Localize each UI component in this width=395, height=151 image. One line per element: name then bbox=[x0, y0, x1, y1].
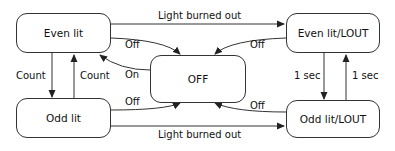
state-even-lit: Even lit bbox=[16, 13, 111, 53]
label-oddlout-to-evenlout: 1 sec bbox=[352, 71, 378, 81]
state-odd-lit-lout: Odd lit/LOUT bbox=[286, 100, 380, 138]
label-oddlout-to-off: Off bbox=[250, 101, 265, 111]
label-odd-to-oddlout: Light burned out bbox=[158, 130, 241, 140]
state-even-lit-label: Even lit bbox=[44, 27, 83, 39]
label-evenlout-to-oddlout: 1 sec bbox=[294, 71, 320, 81]
state-off-label: OFF bbox=[188, 73, 208, 85]
arrow-off-to-even bbox=[100, 55, 150, 70]
state-even-lit-lout: Even lit/LOUT bbox=[286, 13, 380, 53]
label-odd-to-off: Off bbox=[125, 97, 140, 107]
arrow-even-to-off bbox=[111, 38, 180, 54]
label-even-to-odd: Count bbox=[16, 71, 46, 81]
label-evenlout-to-off: Off bbox=[250, 40, 265, 50]
label-odd-to-even: Count bbox=[80, 71, 110, 81]
state-odd-lit-lout-label: Odd lit/LOUT bbox=[300, 113, 366, 125]
state-even-lit-lout-label: Even lit/LOUT bbox=[298, 27, 369, 39]
arrow-odd-to-off bbox=[111, 103, 180, 110]
label-off-to-even: On bbox=[125, 70, 139, 80]
state-odd-lit: Odd lit bbox=[16, 98, 111, 138]
label-even-to-off: Off bbox=[125, 40, 140, 50]
state-off: OFF bbox=[150, 55, 246, 103]
label-even-to-evenlout: Light burned out bbox=[158, 11, 241, 21]
state-odd-lit-label: Odd lit bbox=[46, 112, 81, 124]
